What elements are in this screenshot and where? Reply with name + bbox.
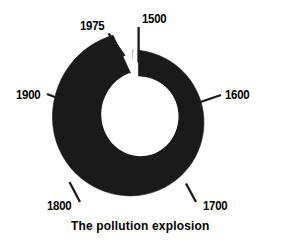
axis-label-1975: 1975 (80, 19, 104, 32)
chart-caption: The pollution explosion (0, 218, 281, 233)
spiral-band-group (52, 35, 203, 196)
axis-label-1700: 1700 (203, 199, 227, 212)
tick-1700 (186, 184, 196, 203)
spiral-band (52, 35, 203, 196)
tick-1600 (201, 95, 222, 102)
axis-label-1900: 1900 (16, 88, 40, 101)
axis-label-1600: 1600 (225, 88, 249, 101)
spiral-chart-graphic (0, 0, 281, 244)
chart-caption-text: The pollution explosion (71, 218, 209, 233)
spiral-gap-wedge (131, 47, 137, 77)
pollution-explosion-figure: 1500 1975 1900 1600 1800 1700 The pollut… (0, 0, 281, 244)
axis-label-1800: 1800 (47, 199, 71, 212)
spiral-top-gap (131, 47, 137, 77)
axis-label-1500: 1500 (142, 12, 166, 25)
